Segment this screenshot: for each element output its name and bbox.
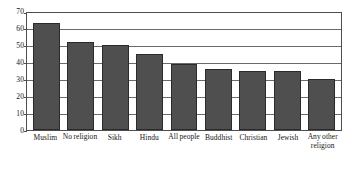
- bar-slot: [167, 13, 201, 130]
- bar-slot: [201, 13, 235, 130]
- bar[interactable]: [308, 79, 335, 130]
- bar[interactable]: [67, 42, 94, 130]
- x-tick-label: Any other religion: [305, 133, 340, 171]
- bar-slot: [29, 13, 63, 130]
- y-tick-label: 10: [0, 110, 24, 118]
- bar-slot: [132, 13, 166, 130]
- bar[interactable]: [274, 71, 301, 131]
- x-tick-label: All people: [167, 133, 202, 171]
- bar[interactable]: [171, 64, 198, 130]
- y-tick-label: 20: [0, 93, 24, 101]
- x-tick-label: Christian: [236, 133, 271, 171]
- y-tick-label: 40: [0, 59, 24, 67]
- bar-slot: [63, 13, 97, 130]
- x-axis-category-labels: MuslimNo religionSikhHinduAll peopleBudd…: [26, 133, 342, 171]
- bar[interactable]: [239, 71, 266, 131]
- bar-chart: 010203040506070 MuslimNo religionSikhHin…: [0, 0, 353, 171]
- bar-slot: [305, 13, 339, 130]
- y-axis-tick-labels: 010203040506070: [0, 0, 24, 171]
- x-tick-label: Hindu: [132, 133, 167, 171]
- bar[interactable]: [205, 69, 232, 130]
- plot-area: [26, 12, 342, 131]
- y-tick-label: 60: [0, 25, 24, 33]
- y-tick-label: 30: [0, 76, 24, 84]
- bar[interactable]: [102, 45, 129, 130]
- bar-slot: [236, 13, 270, 130]
- y-tick-label: 50: [0, 42, 24, 50]
- bar-series: [27, 13, 341, 130]
- bar-slot: [98, 13, 132, 130]
- y-axis-tick-mark: [24, 131, 27, 132]
- x-tick-label: Muslim: [28, 133, 63, 171]
- bar[interactable]: [136, 54, 163, 131]
- x-tick-label: No religion: [63, 133, 98, 171]
- x-tick-label: Buddhist: [201, 133, 236, 171]
- x-tick-label: Sikh: [97, 133, 132, 171]
- x-tick-label: Jewish: [271, 133, 306, 171]
- y-tick-label: 0: [0, 127, 24, 135]
- bar[interactable]: [33, 23, 60, 130]
- y-tick-label: 70: [0, 8, 24, 16]
- bar-slot: [270, 13, 304, 130]
